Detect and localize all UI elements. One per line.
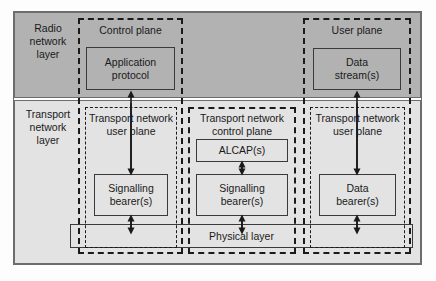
alcap-label: ALCAP(s) — [219, 144, 266, 157]
signalling-bearer-user-box: Signalling bearer(s) — [94, 174, 168, 216]
transport-network-control-plane-caption: Transport network control plane — [187, 112, 297, 138]
transport-network-user-plane-right-caption: Transport network user plane — [309, 112, 406, 138]
alcap-box: ALCAP(s) — [196, 139, 288, 162]
user-plane-caption: User plane — [305, 24, 409, 37]
application-protocol-label: Application protocol — [105, 56, 156, 82]
data-stream-label: Data stream(s) — [335, 56, 379, 82]
data-bearer-label: Data bearer(s) — [336, 182, 379, 208]
diagram-canvas: Radio network layer Transport network la… — [0, 0, 436, 281]
data-bearer-box: Data bearer(s) — [319, 174, 396, 216]
control-plane-caption: Control plane — [80, 24, 181, 37]
signalling-bearer-control-label: Signalling bearer(s) — [219, 182, 265, 208]
radio-network-layer-label: Radio network layer — [18, 22, 78, 61]
signalling-bearer-control-box: Signalling bearer(s) — [196, 174, 288, 216]
signalling-bearer-user-label: Signalling bearer(s) — [108, 182, 154, 208]
data-stream-box: Data stream(s) — [313, 48, 401, 90]
transport-network-user-plane-left-caption: Transport network user plane — [84, 112, 178, 138]
application-protocol-box: Application protocol — [86, 47, 175, 90]
transport-network-layer-label: Transport network layer — [18, 108, 78, 147]
